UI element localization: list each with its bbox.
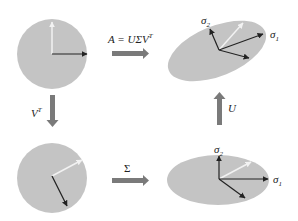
transform-arrow-VT: VT (31, 95, 59, 127)
final-ellipse: σ2 σ1 (159, 8, 279, 93)
rotated-circle (17, 143, 87, 213)
label-A-eq: A = UΣV (107, 33, 150, 45)
svg-text:σ1: σ1 (270, 28, 279, 43)
svg-text:A = UΣVT: A = UΣVT (107, 32, 154, 45)
transform-arrow-Sigma: Σ (112, 162, 149, 186)
scaled-ellipse: σ2 σ1 (167, 143, 282, 205)
label-Sigma: Σ (124, 162, 130, 174)
transform-arrow-A: A = UΣVT (107, 32, 154, 59)
transform-arrow-U: U (214, 92, 238, 125)
svg-text:σ2: σ2 (201, 14, 210, 29)
svg-text:VT: VT (31, 106, 43, 119)
label-A-sup: T (149, 32, 154, 40)
label-U: U (228, 102, 237, 114)
svd-diagram: A = UΣVT σ2 σ1 VT U (0, 0, 298, 221)
svg-text:σ1: σ1 (273, 173, 282, 188)
unit-circle (17, 19, 87, 89)
